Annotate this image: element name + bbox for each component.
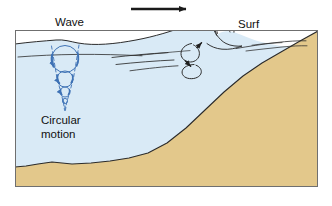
label-wave: Wave (55, 16, 84, 28)
wave-surf-diagram: Wave Surf Circular motion (0, 0, 332, 206)
scene (15, 21, 318, 187)
label-circular-motion-line2: motion (41, 128, 76, 140)
label-surf: Surf (238, 18, 260, 30)
diagram-canvas: Wave Surf Circular motion (0, 0, 332, 206)
label-circular-motion-line1: Circular (41, 114, 81, 126)
